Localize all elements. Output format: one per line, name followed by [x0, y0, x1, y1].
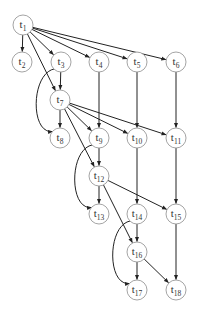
node-t3: t3 [51, 52, 71, 72]
node-t9: t9 [89, 128, 109, 148]
edge-t16-t18 [144, 259, 168, 283]
node-t5: t5 [127, 52, 147, 72]
edge-t1-t3 [30, 32, 53, 55]
node-t16: t16 [127, 242, 147, 262]
edge-t7-t11 [70, 103, 167, 135]
node-t13: t13 [89, 204, 109, 224]
node-t14: t14 [127, 204, 147, 224]
edge-t7-t9 [67, 107, 91, 131]
node-t12: t12 [89, 166, 109, 186]
node-t4: t4 [89, 52, 109, 72]
node-t1: t1 [13, 15, 33, 35]
node-t8: t8 [50, 128, 70, 148]
node-t6: t6 [166, 52, 186, 72]
node-t11: t11 [166, 128, 186, 148]
node-t18: t18 [166, 280, 186, 300]
node-t15: t15 [166, 204, 186, 224]
node-t2: t2 [12, 52, 32, 72]
node-t17: t17 [127, 280, 147, 300]
node-t7: t7 [50, 90, 70, 110]
task-graph: t1t2t3t4t5t6t7t8t9t10t11t12t13t14t15t16t… [0, 0, 199, 317]
node-t10: t10 [127, 128, 147, 148]
edge-t1-t5 [33, 28, 128, 59]
